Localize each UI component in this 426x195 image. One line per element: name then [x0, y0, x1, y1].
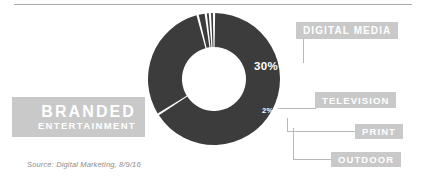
category-label-digital-media: DIGITAL MEDIA: [296, 22, 398, 39]
leader-line-print-vertical: [287, 118, 288, 132]
category-label-outdoor-text: OUTDOOR: [338, 154, 394, 165]
slice-value-print: 1%: [269, 116, 280, 125]
slice-value-outdoor: 1%: [276, 125, 287, 134]
category-label-television: TELEVISION: [315, 92, 396, 108]
leader-line-outdoor-vertical: [293, 128, 294, 160]
category-label-outdoor: OUTDOOR: [331, 152, 401, 167]
category-label-branded-line2: ENTERTAINMENT: [38, 120, 136, 132]
category-label-branded-line1: BRANDED: [41, 103, 136, 120]
leader-line-digital-media: [303, 39, 304, 63]
donut-slice-outdoor: [211, 13, 213, 47]
leader-line-television: [278, 108, 316, 109]
donut-chart-svg: [147, 12, 281, 146]
top-divider-rule: [14, 4, 412, 5]
category-label-digital-media-text: DIGITAL MEDIA: [303, 25, 391, 36]
slice-value-digital-media: 30%: [254, 60, 278, 72]
slice-value-television: 2%: [262, 106, 273, 115]
leader-line-print-horizontal: [287, 131, 356, 132]
category-label-television-text: TELEVISION: [322, 95, 389, 106]
source-citation: Source: Digital Marketing, 8/9/16: [27, 160, 141, 169]
category-label-print-text: PRINT: [362, 126, 396, 137]
leader-line-outdoor-horizontal: [293, 159, 332, 160]
donut-chart: [147, 12, 281, 146]
category-label-print: PRINT: [355, 124, 403, 139]
chart-figure: 30% 66% 2% 1% 1% DIGITAL MEDIA TELEVISIO…: [0, 0, 426, 195]
donut-slice-digital-media: [148, 15, 206, 113]
slice-value-branded-entertainment: 66%: [194, 155, 218, 167]
category-label-branded-entertainment: BRANDED ENTERTAINMENT: [12, 97, 145, 137]
